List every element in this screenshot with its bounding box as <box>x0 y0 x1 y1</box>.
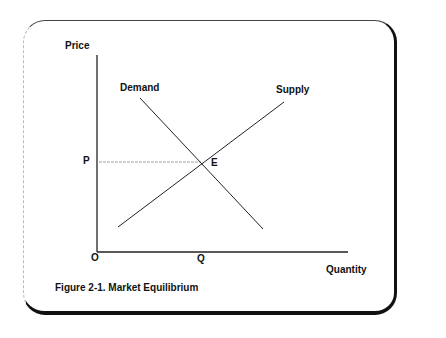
demand-label: Demand <box>120 82 159 93</box>
quantity-q-label: Q <box>197 253 205 264</box>
figure-caption: Figure 2-1. Market Equilibrium <box>55 282 198 293</box>
supply-label: Supply <box>276 84 309 95</box>
price-p-label: P <box>83 155 90 166</box>
equilibrium-e-label: E <box>211 157 218 168</box>
supply-curve <box>118 102 284 227</box>
x-axis-label: Quantity <box>326 264 367 275</box>
origin-label: O <box>91 252 99 263</box>
y-axis-label: Price <box>65 40 89 51</box>
